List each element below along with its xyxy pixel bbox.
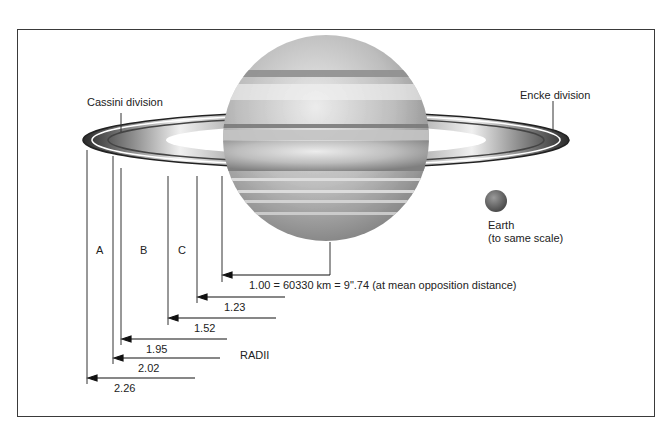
saturn-planet bbox=[200, 35, 460, 241]
radius-1-00-label: 1.00 = 60330 km = 9".74 (at mean opposit… bbox=[249, 279, 516, 292]
radius-2-02-label: 2.02 bbox=[138, 362, 159, 375]
radius-2-26-label: 2.26 bbox=[114, 382, 135, 395]
earth-globe bbox=[485, 190, 507, 212]
radius-1-95-label: 1.95 bbox=[146, 343, 167, 356]
earth-scale-label: (to same scale) bbox=[488, 232, 563, 245]
ring-b-label: B bbox=[140, 244, 147, 257]
radii-label: RADII bbox=[240, 349, 269, 362]
cassini-division-label: Cassini division bbox=[87, 96, 163, 109]
ring-c-label: C bbox=[178, 244, 186, 257]
earth-label: Earth bbox=[488, 219, 514, 232]
ring-a-label: A bbox=[96, 244, 103, 257]
encke-division-label: Encke division bbox=[520, 89, 590, 102]
saturn-diagram bbox=[0, 0, 671, 439]
radius-1-52-label: 1.52 bbox=[194, 322, 215, 335]
radius-1-23-label: 1.23 bbox=[224, 301, 245, 314]
